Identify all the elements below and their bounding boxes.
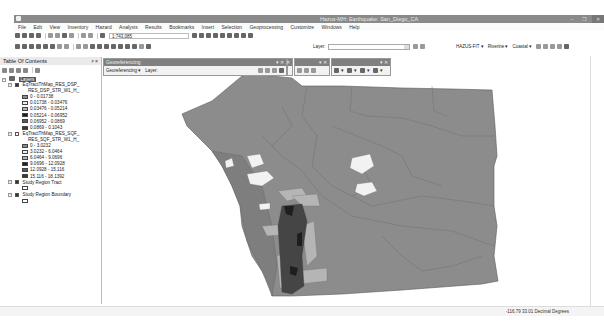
viewer-window-icon[interactable]: [146, 44, 151, 49]
panel-close-icon[interactable]: ✕: [286, 59, 290, 66]
cut-icon[interactable]: [48, 33, 53, 38]
table-icon[interactable]: [420, 44, 425, 49]
menu-windows[interactable]: Windows: [322, 23, 342, 31]
print-icon[interactable]: [36, 33, 41, 38]
forward-extent-icon[interactable]: [64, 44, 69, 49]
flood-tool-icon[interactable]: [536, 44, 541, 49]
coastal-menu[interactable]: Coastal ▾: [512, 44, 532, 49]
menu-inventory[interactable]: Inventory: [68, 23, 89, 31]
editor-toolbar-icon[interactable]: [192, 33, 197, 38]
find-route-icon[interactable]: [125, 44, 130, 49]
map-canvas[interactable]: [102, 56, 588, 304]
list-by-visibility-icon[interactable]: [16, 68, 21, 73]
measure-icon[interactable]: [111, 44, 116, 49]
go-to-xy-icon[interactable]: [132, 44, 137, 49]
menu-help[interactable]: Help: [349, 23, 359, 31]
fixed-zoom-in-icon[interactable]: [43, 44, 48, 49]
help-icon[interactable]: [241, 33, 246, 38]
identify-icon[interactable]: [97, 44, 102, 49]
layer-visibility-checkbox[interactable]: [15, 193, 19, 197]
georeferencing-close-icon[interactable]: ▾ ✕: [276, 59, 284, 66]
hazus-fit-menu[interactable]: HAZUS-FIT ▾: [456, 44, 484, 49]
find-icon[interactable]: [118, 44, 123, 49]
layer-visibility-checkbox[interactable]: [15, 180, 19, 184]
panel-close-icon[interactable]: ▾ ✕: [380, 59, 388, 66]
menu-insert[interactable]: Insert: [202, 23, 215, 31]
collapse-icon[interactable]: −: [8, 83, 12, 87]
layer-dropdown[interactable]: [328, 44, 410, 50]
zoom-in-icon[interactable]: [15, 44, 20, 49]
table-of-contents-icon[interactable]: [199, 33, 204, 38]
list-by-source-icon[interactable]: [9, 68, 14, 73]
open-icon[interactable]: [22, 33, 27, 38]
dock-handle-icon[interactable]: [564, 44, 569, 49]
cut-polygon-icon[interactable]: [311, 68, 316, 73]
what-is-this-icon[interactable]: [248, 33, 253, 38]
spatial-adjust-icon[interactable]: [413, 44, 418, 49]
edit-vertex-icon[interactable]: [297, 68, 302, 73]
close-button[interactable]: ✕: [592, 15, 604, 23]
minimize-button[interactable]: –: [566, 15, 578, 23]
python-window-icon[interactable]: [227, 33, 232, 38]
copy-icon[interactable]: [55, 33, 60, 38]
arctoolbox-icon[interactable]: [220, 33, 225, 38]
georeferencing-title-bar[interactable]: Georeferencing ▾ ✕: [104, 59, 286, 66]
collapse-icon[interactable]: −: [8, 132, 12, 136]
delete-icon[interactable]: [69, 33, 74, 38]
model-builder-icon[interactable]: [234, 33, 239, 38]
full-extent-icon[interactable]: [36, 44, 41, 49]
panel-close-icon[interactable]: ▾ ✕: [319, 59, 327, 66]
font-color-icon[interactable]: [334, 68, 339, 73]
fixed-zoom-out-icon[interactable]: [50, 44, 55, 49]
add-data-icon[interactable]: [100, 33, 105, 38]
clear-selection-icon[interactable]: [83, 44, 88, 49]
georeferencing-menu[interactable]: Georeferencing ▾: [106, 68, 141, 73]
add-control-points-icon[interactable]: [272, 68, 277, 73]
line-color-icon[interactable]: [360, 68, 365, 73]
zoom-out-icon[interactable]: [22, 44, 27, 49]
new-icon[interactable]: [15, 33, 20, 38]
menu-bookmarks[interactable]: Bookmarks: [169, 23, 194, 31]
list-by-drawing-order-icon[interactable]: [2, 68, 7, 73]
map-view[interactable]: [102, 56, 588, 304]
fill-color-icon[interactable]: [347, 68, 352, 73]
riverine-menu[interactable]: Riverine ▾: [488, 44, 509, 49]
search-window-icon[interactable]: [213, 33, 218, 38]
layer-visibility-checkbox[interactable]: [15, 83, 19, 87]
shift-icon[interactable]: [265, 68, 270, 73]
menu-hazard[interactable]: Hazard: [96, 23, 112, 31]
menu-results[interactable]: Results: [145, 23, 162, 31]
reshape-icon[interactable]: [304, 68, 309, 73]
time-slider-icon[interactable]: [139, 44, 144, 49]
pan-icon[interactable]: [29, 44, 34, 49]
edit-tool-icon[interactable]: [550, 44, 555, 49]
catalog-icon[interactable]: [206, 33, 211, 38]
menu-edit[interactable]: Edit: [33, 23, 42, 31]
restore-button[interactable]: ❐: [578, 15, 590, 23]
menu-selection[interactable]: Selection: [222, 23, 243, 31]
collapse-icon[interactable]: −: [8, 193, 12, 197]
layer-visibility-checkbox[interactable]: [15, 132, 19, 136]
paste-icon[interactable]: [62, 33, 67, 38]
collapse-icon[interactable]: −: [8, 180, 12, 184]
menu-geoprocessing[interactable]: Geoprocessing: [249, 23, 283, 31]
html-popup-icon[interactable]: [104, 44, 109, 49]
save-icon[interactable]: [29, 33, 34, 38]
menu-view[interactable]: View: [49, 23, 60, 31]
view-link-table-icon[interactable]: [279, 68, 284, 73]
select-features-icon[interactable]: [76, 44, 81, 49]
menu-file[interactable]: File: [18, 23, 26, 31]
options-icon[interactable]: [35, 68, 40, 73]
list-by-selection-icon[interactable]: [23, 68, 28, 73]
marker-color-icon[interactable]: [373, 68, 378, 73]
draw-tool-icon[interactable]: [543, 44, 548, 49]
rotate-icon[interactable]: [258, 68, 263, 73]
back-extent-icon[interactable]: [57, 44, 62, 49]
select-elements-icon[interactable]: [90, 44, 95, 49]
redo-icon[interactable]: [88, 33, 93, 38]
pointer-tool-icon[interactable]: [557, 44, 562, 49]
toc-pin-close[interactable]: ᵖ ×: [92, 57, 98, 65]
menu-customize[interactable]: Customize: [291, 23, 315, 31]
menu-analysis[interactable]: Analysis: [119, 23, 138, 31]
map-scale-input[interactable]: 1:743,085: [109, 33, 189, 39]
